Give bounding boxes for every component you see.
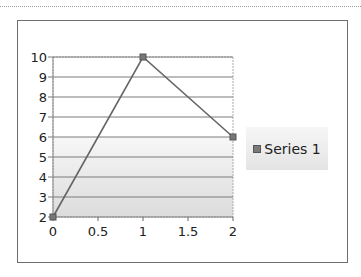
x-tick-label: 0 xyxy=(49,224,57,239)
x-tick-label: 2 xyxy=(229,224,237,239)
data-point-marker xyxy=(50,214,56,220)
y-tick-label: 10 xyxy=(30,50,47,65)
y-tick-label: 5 xyxy=(39,150,47,165)
x-tick-label: 0.5 xyxy=(88,224,109,239)
legend: Series 1 xyxy=(246,127,328,170)
y-tick-label: 7 xyxy=(39,110,47,125)
y-tick-label: 3 xyxy=(39,190,47,205)
x-tick-label: 1 xyxy=(139,224,147,239)
data-point-marker xyxy=(230,134,236,140)
data-point-marker xyxy=(140,54,146,60)
legend-label: Series 1 xyxy=(264,141,320,157)
y-tick-label: 2 xyxy=(39,210,47,225)
legend-marker-icon xyxy=(253,145,261,153)
x-tick-label: 1.5 xyxy=(178,224,199,239)
y-tick-label: 9 xyxy=(39,70,47,85)
y-tick-label: 6 xyxy=(39,130,47,145)
y-tick-label: 4 xyxy=(39,170,47,185)
y-tick-label: 8 xyxy=(39,90,47,105)
